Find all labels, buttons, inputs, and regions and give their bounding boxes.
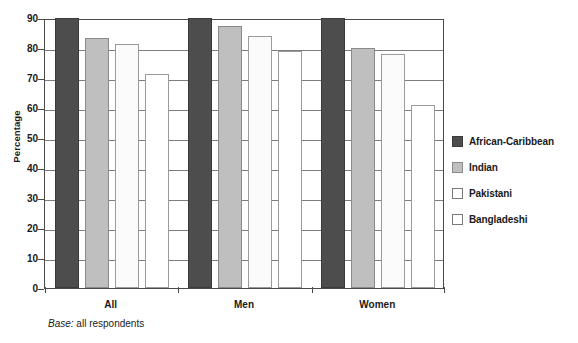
- x-axis-group-separator: [312, 287, 313, 293]
- y-axis-tick-label: 80: [14, 44, 38, 54]
- legend: African-CaribbeanIndianPakistaniBanglade…: [452, 128, 576, 232]
- legend-swatch-icon: [452, 214, 463, 225]
- x-axis-group-separator: [178, 287, 179, 293]
- bar-women-indian: [351, 48, 375, 288]
- bar-men-pakistani: [248, 36, 272, 288]
- x-axis-end-tick: [444, 287, 445, 293]
- bar-women-african-caribbean: [321, 18, 345, 288]
- legend-item-pakistani[interactable]: Pakistani: [452, 180, 576, 206]
- legend-label: African-Caribbean: [469, 136, 554, 147]
- base-note-text: all respondents: [74, 318, 145, 329]
- y-axis-tick-label: 70: [14, 74, 38, 84]
- y-axis-tick-label: 60: [14, 104, 38, 114]
- base-note-label: Base:: [48, 318, 74, 329]
- x-axis-label-all: All: [44, 299, 177, 310]
- x-axis-end-tick: [45, 287, 46, 293]
- legend-label: Indian: [469, 162, 498, 173]
- x-axis-label-men: Men: [177, 299, 310, 310]
- y-axis-tick-label: 50: [14, 134, 38, 144]
- legend-swatch-icon: [452, 162, 463, 173]
- legend-swatch-icon: [452, 188, 463, 199]
- legend-swatch-icon: [452, 136, 463, 147]
- bar-men-bangladeshi: [278, 51, 302, 288]
- y-axis-tick-label: 0: [14, 284, 38, 294]
- bar-women-pakistani: [381, 54, 405, 288]
- bar-women-bangladeshi: [411, 105, 435, 288]
- bar-all-bangladeshi: [145, 74, 169, 289]
- y-axis-tick-label: 90: [14, 14, 38, 24]
- y-axis-tick-label: 40: [14, 164, 38, 174]
- y-axis-tick-label: 30: [14, 194, 38, 204]
- legend-item-african-caribbean[interactable]: African-Caribbean: [452, 128, 576, 154]
- y-axis-tick-label: 10: [14, 254, 38, 264]
- plot-area: [44, 19, 444, 289]
- bar-chart-figure: Percentage 0102030405060708090 AllMenWom…: [0, 0, 578, 343]
- bar-men-african-caribbean: [188, 18, 212, 288]
- base-note: Base: all respondents: [48, 318, 144, 329]
- bar-men-indian: [218, 26, 242, 289]
- bar-all-african-caribbean: [55, 18, 79, 288]
- x-axis-label-women: Women: [311, 299, 444, 310]
- legend-item-bangladeshi[interactable]: Bangladeshi: [452, 206, 576, 232]
- legend-item-indian[interactable]: Indian: [452, 154, 576, 180]
- bar-all-indian: [85, 38, 109, 289]
- legend-label: Pakistani: [469, 188, 512, 199]
- bar-all-pakistani: [115, 44, 139, 289]
- legend-label: Bangladeshi: [469, 214, 527, 225]
- y-axis-tick-label: 20: [14, 224, 38, 234]
- y-axis-tick-labels: 0102030405060708090: [12, 0, 38, 343]
